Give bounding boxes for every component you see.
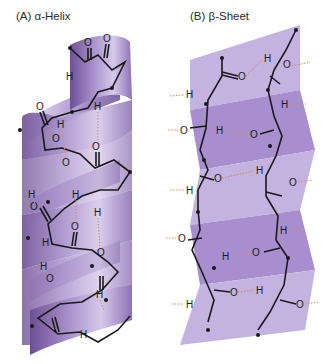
svg-text:O: O (238, 71, 246, 82)
svg-text:O: O (252, 247, 260, 258)
svg-text:O: O (296, 299, 304, 310)
svg-text:H: H (57, 119, 64, 130)
svg-text:H: H (42, 237, 49, 248)
svg-text:H: H (28, 189, 35, 200)
svg-text:O: O (46, 273, 54, 284)
svg-text:H: H (280, 225, 287, 236)
svg-text:H: H (186, 89, 193, 100)
svg-text:O: O (230, 287, 238, 298)
svg-text:H: H (66, 71, 73, 82)
svg-text:O: O (214, 173, 222, 184)
svg-text:H: H (222, 251, 229, 262)
svg-text:H: H (186, 185, 193, 196)
svg-text:O: O (71, 221, 79, 232)
svg-text:H: H (72, 189, 79, 200)
svg-text:H: H (94, 207, 101, 218)
svg-text:H: H (264, 53, 271, 64)
svg-text:H: H (256, 165, 263, 176)
svg-text:H: H (80, 329, 87, 340)
svg-text:O: O (97, 247, 105, 258)
diagram-canvas: O O H O H H H O O O H H O H O O H O H H (0, 0, 327, 364)
svg-text:O: O (36, 101, 44, 112)
svg-text:H: H (40, 261, 47, 272)
svg-text:O: O (180, 125, 188, 136)
svg-text:O: O (103, 33, 111, 44)
svg-text:O: O (178, 233, 186, 244)
svg-text:H: H (186, 299, 193, 310)
svg-text:O: O (84, 37, 92, 48)
svg-text:H: H (256, 285, 263, 296)
svg-text:H: H (94, 101, 101, 112)
svg-text:O: O (289, 177, 297, 188)
svg-text:H: H (96, 289, 103, 300)
svg-text:H: H (216, 125, 223, 136)
svg-text:H: H (281, 99, 288, 110)
svg-text:O: O (62, 157, 70, 168)
svg-text:O: O (250, 129, 258, 140)
svg-text:O: O (52, 133, 60, 144)
svg-text:O: O (92, 141, 100, 152)
svg-text:O: O (283, 59, 291, 70)
